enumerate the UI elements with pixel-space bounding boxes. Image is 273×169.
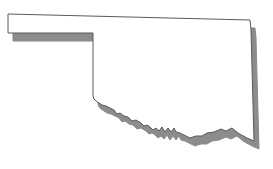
oklahoma-map-icon [0,0,273,169]
